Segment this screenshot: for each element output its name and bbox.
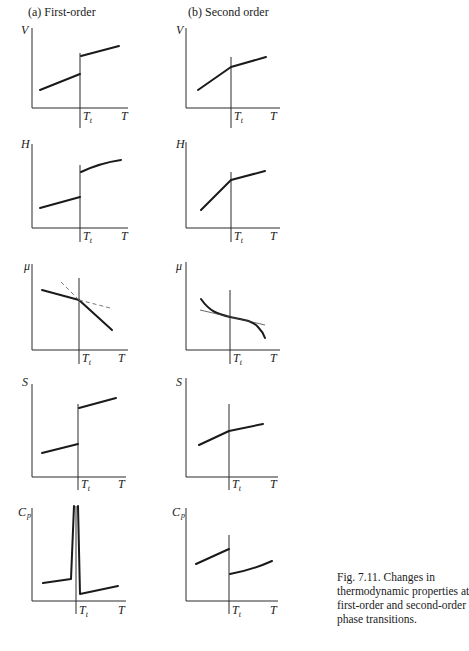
svg-text:Tt: Tt [233, 351, 243, 367]
svg-text:T: T [270, 229, 278, 243]
svg-text:T: T [118, 603, 126, 617]
svg-text:T: T [270, 603, 278, 617]
panel-s-first-order: S Tt T [22, 375, 126, 493]
svg-text:μ: μ [23, 259, 30, 273]
svg-text:S: S [176, 375, 182, 389]
svg-text:V: V [176, 23, 185, 37]
caption-line-3: first-order and second-order [337, 598, 442, 612]
svg-text:Tt: Tt [82, 351, 92, 367]
svg-text:Tt: Tt [232, 477, 242, 493]
svg-text:Tt: Tt [81, 477, 91, 493]
caption-line-4: phase transitions. [337, 612, 442, 626]
svg-text:Tt: Tt [234, 109, 244, 125]
panel-v-first-order: V Tt T [21, 23, 129, 128]
svg-text:p: p [26, 511, 31, 520]
caption-line-2: thermodynamic properties at [337, 584, 442, 598]
panel-mu-second-order: μ Tt T [175, 259, 280, 367]
svg-text:T: T [118, 351, 126, 365]
panel-v-second-order: V Tt T [176, 23, 280, 128]
panel-h-first-order: H Tt T [20, 137, 129, 245]
svg-text:μ: μ [175, 259, 182, 273]
panel-mu-first-order: μ Tt T [23, 259, 128, 367]
panel-h-second-order: H Tt T [175, 137, 280, 245]
panel-cp-second-order: C p Tt T [172, 505, 278, 619]
svg-text:C: C [18, 505, 27, 519]
caption-line-1: Fig. 7.11. Changes in [337, 570, 442, 584]
svg-text:T: T [121, 229, 129, 243]
panel-s-second-order: S Tt T [176, 375, 278, 493]
svg-text:H: H [175, 137, 186, 151]
svg-text:T: T [270, 109, 278, 123]
panel-cp-first-order: C p Tt T [18, 505, 126, 619]
svg-text:T: T [118, 477, 126, 491]
figure-caption: Fig. 7.11. Changes in thermodynamic prop… [337, 570, 442, 626]
svg-text:T: T [270, 477, 278, 491]
svg-text:T: T [270, 351, 278, 365]
svg-text:Tt: Tt [79, 603, 89, 619]
svg-text:p: p [180, 511, 185, 520]
x-label-t: T [121, 109, 129, 123]
svg-text:Tt: Tt [234, 229, 244, 245]
svg-text:S: S [22, 375, 28, 389]
svg-text:H: H [20, 137, 31, 151]
y-label-v: V [21, 23, 30, 37]
svg-text:Tt: Tt [83, 229, 93, 245]
tt-label: Tt [83, 109, 93, 125]
svg-text:Tt: Tt [232, 603, 242, 619]
svg-text:C: C [172, 505, 181, 519]
